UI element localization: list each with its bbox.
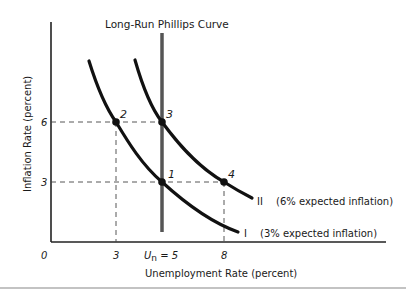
curve-II-description: (6% expected inflation) [276,196,393,207]
point-2-marker [112,118,120,126]
curve-I-description: (3% expected inflation) [260,228,377,239]
curve-I-name: I [244,228,247,239]
point-4-label: 4 [228,168,235,181]
y-tick-3: 3 [41,177,47,188]
phillips-curve-chart: 1 2 3 4 Long-Run Phillips Curve II (6% e… [0,0,406,298]
chart-title: Long-Run Phillips Curve [105,18,229,30]
point-1-label: 1 [168,168,175,181]
x-tick-un: Un = 5 [144,250,178,263]
point-3-marker [158,118,166,126]
point-4-marker [220,178,228,186]
curve-II-name: II [257,196,263,207]
x-axis-label: Unemployment Rate (percent) [145,268,297,279]
point-2-label: 2 [120,108,127,121]
x-tick-8: 8 [221,250,227,261]
x-tick-3: 3 [113,250,119,261]
point-1-marker [158,178,166,186]
guide-lines [51,122,224,242]
point-3-label: 3 [166,108,173,121]
y-axis-label: Inflation Rate (percent) [22,76,33,192]
y-tick-6: 6 [41,117,47,128]
x-tick-0: 0 [41,250,47,261]
